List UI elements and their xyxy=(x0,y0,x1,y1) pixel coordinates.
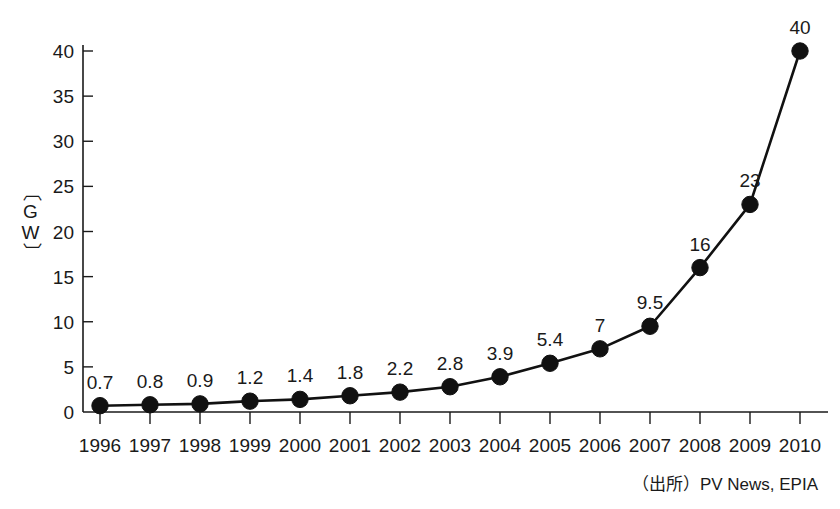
data-point-marker xyxy=(392,384,408,400)
y-axis-tick-label: 30 xyxy=(53,131,74,152)
x-axis-tick-label: 2003 xyxy=(429,435,471,456)
x-axis-tick-label: 2000 xyxy=(279,435,321,456)
data-point-marker xyxy=(742,196,758,212)
y-axis-tick-label: 0 xyxy=(63,402,74,423)
data-point-marker xyxy=(542,355,558,371)
x-axis-tick-label: 1998 xyxy=(179,435,221,456)
x-axis-tick-label: 1996 xyxy=(79,435,121,456)
data-point-label: 16 xyxy=(689,234,710,255)
y-axis-tick-label: 5 xyxy=(63,357,74,378)
y-axis-tick-label: 10 xyxy=(53,312,74,333)
y-axis-tick-label: 20 xyxy=(53,222,74,243)
source-note: （出所）PV News, EPIA xyxy=(632,470,818,495)
series-data-label-group: 0.70.80.91.21.41.82.22.83.95.479.5162340 xyxy=(87,17,811,393)
line-chart-plot: 0510152025303540 19961997199819992000200… xyxy=(0,0,840,509)
data-point-marker xyxy=(642,318,658,334)
data-point-label: 9.5 xyxy=(637,292,663,313)
x-axis-tick-label: 2008 xyxy=(679,435,721,456)
y-axis-tick-label: 25 xyxy=(53,176,74,197)
data-point-label: 2.2 xyxy=(387,358,413,379)
data-point-marker xyxy=(192,396,208,412)
x-axis-tick-label: 2006 xyxy=(579,435,621,456)
y-axis-tick-label: 40 xyxy=(53,41,74,62)
data-point-label: 0.8 xyxy=(137,371,163,392)
y-axis-tick-label: 15 xyxy=(53,267,74,288)
data-point-label: 23 xyxy=(739,170,760,191)
data-point-marker xyxy=(292,391,308,407)
x-axis-tick-label: 2001 xyxy=(329,435,371,456)
x-axis-tick-label: 2004 xyxy=(479,435,522,456)
data-point-label: 40 xyxy=(789,17,810,38)
chart-container: 〔GW〕 0510152025303540 199619971998199920… xyxy=(0,0,840,509)
data-point-marker xyxy=(592,341,608,357)
data-point-label: 1.4 xyxy=(287,365,314,386)
x-axis-tick-label: 1999 xyxy=(229,435,271,456)
y-axis-tick-label: 35 xyxy=(53,86,74,107)
data-point-marker xyxy=(142,397,158,413)
data-point-marker xyxy=(92,397,108,413)
data-point-marker xyxy=(692,259,708,275)
x-axis-tick-group: 1996199719981999200020012002200320042005… xyxy=(79,412,821,456)
data-point-label: 5.4 xyxy=(537,329,564,350)
data-point-label: 1.2 xyxy=(237,367,263,388)
y-axis-tick-group: 0510152025303540 xyxy=(53,41,93,423)
data-point-label: 0.7 xyxy=(87,372,113,393)
data-point-marker xyxy=(442,379,458,395)
data-point-label: 3.9 xyxy=(487,343,513,364)
x-axis-tick-label: 2009 xyxy=(729,435,771,456)
data-point-marker xyxy=(492,369,508,385)
x-axis-tick-label: 2002 xyxy=(379,435,421,456)
data-point-label: 1.8 xyxy=(337,362,363,383)
data-point-label: 2.8 xyxy=(437,353,463,374)
x-axis-tick-label: 2010 xyxy=(779,435,821,456)
data-point-marker xyxy=(792,43,808,59)
x-axis-tick-label: 2005 xyxy=(529,435,571,456)
x-axis-tick-label: 2007 xyxy=(629,435,671,456)
data-point-marker xyxy=(342,388,358,404)
data-point-label: 0.9 xyxy=(187,370,213,391)
data-point-marker xyxy=(242,393,258,409)
data-point-label: 7 xyxy=(595,315,606,336)
x-axis-tick-label: 1997 xyxy=(129,435,171,456)
